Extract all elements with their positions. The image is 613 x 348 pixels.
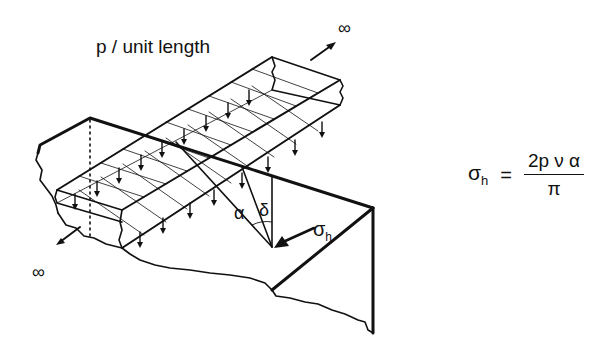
formula-subscript: h xyxy=(481,174,488,189)
sigma-h-label: σh xyxy=(313,218,332,244)
formula-sigma: σ xyxy=(468,161,481,184)
delta-label: δ xyxy=(259,200,269,221)
load-arrowheads xyxy=(72,100,325,248)
angle-arc xyxy=(252,221,272,225)
strip-bottom-right-edge xyxy=(122,105,340,248)
wall-top-edge xyxy=(38,118,373,208)
far-infinity-symbol: ∞ xyxy=(338,18,351,39)
formula-fraction: 2p ν α π xyxy=(524,150,584,200)
near-infinity-symbol: ∞ xyxy=(32,262,45,283)
formula-denominator: π xyxy=(547,175,560,200)
sigma-subscript: h xyxy=(325,230,332,244)
formula-numerator: 2p ν α xyxy=(524,150,584,175)
wall-jagged-left-edge xyxy=(36,153,58,213)
sigma-h-arrow-shaft xyxy=(283,228,314,242)
load-label: p / unit length xyxy=(96,36,210,58)
near-infinity-arrow xyxy=(60,227,80,242)
sigma-symbol: σ xyxy=(313,218,325,240)
strip-far-end xyxy=(272,57,343,105)
alpha-ray-left xyxy=(176,142,272,247)
formula-lhs: σh xyxy=(468,161,488,188)
alpha-label: α xyxy=(234,203,244,224)
wall-jagged-lower-edge xyxy=(272,290,373,333)
formula-equals: = xyxy=(500,164,512,187)
stress-formula: σh = 2p ν α π xyxy=(468,150,584,200)
sigma-h-arrowhead xyxy=(274,236,289,248)
